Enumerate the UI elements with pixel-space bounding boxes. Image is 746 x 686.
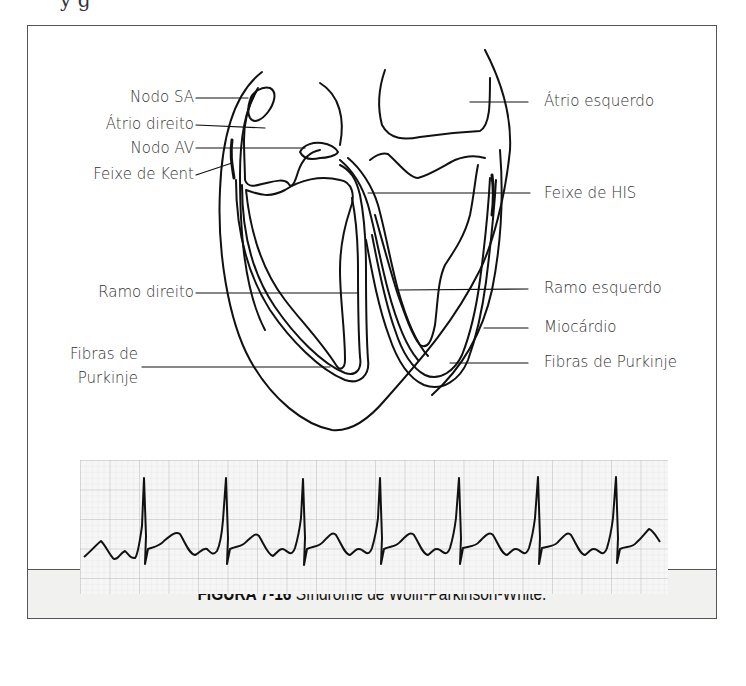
ecg-strip xyxy=(0,0,746,686)
